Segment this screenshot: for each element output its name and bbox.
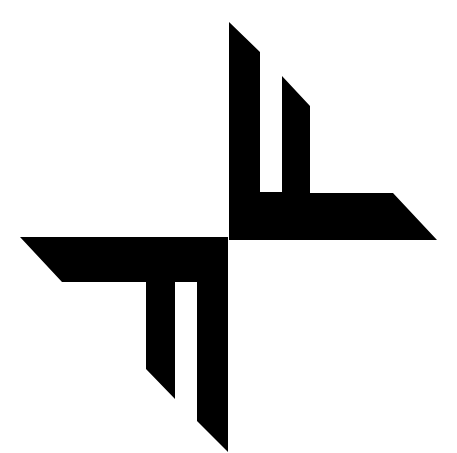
pinwheel-logo-icon — [0, 0, 457, 453]
